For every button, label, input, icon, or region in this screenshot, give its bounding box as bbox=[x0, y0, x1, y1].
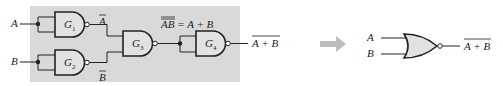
input-b-label: B bbox=[11, 55, 18, 67]
g3-output-expression: AB = A + B bbox=[160, 18, 214, 30]
g4-inversion-bubble bbox=[226, 41, 231, 46]
g3-inversion-bubble bbox=[153, 41, 158, 46]
nor-input-b-label: B bbox=[367, 47, 374, 59]
input-a-label: A bbox=[10, 17, 18, 29]
b-bar-label: B bbox=[99, 71, 106, 83]
final-output-label: A + B bbox=[251, 37, 278, 49]
nor-input-a-label: A bbox=[366, 31, 374, 43]
a-bar-label: A bbox=[98, 15, 106, 27]
equivalence-arrow-icon bbox=[320, 36, 346, 52]
g1-inversion-bubble bbox=[85, 22, 90, 27]
nand-to-nor-diagram: A G1 A B G2 B G3 AB = A + B G4 A + B A bbox=[0, 0, 503, 86]
nor-gate bbox=[404, 34, 437, 58]
nor-output-label: A + B bbox=[463, 40, 490, 52]
g2-inversion-bubble bbox=[85, 60, 90, 65]
nor-inversion-bubble bbox=[438, 44, 443, 49]
